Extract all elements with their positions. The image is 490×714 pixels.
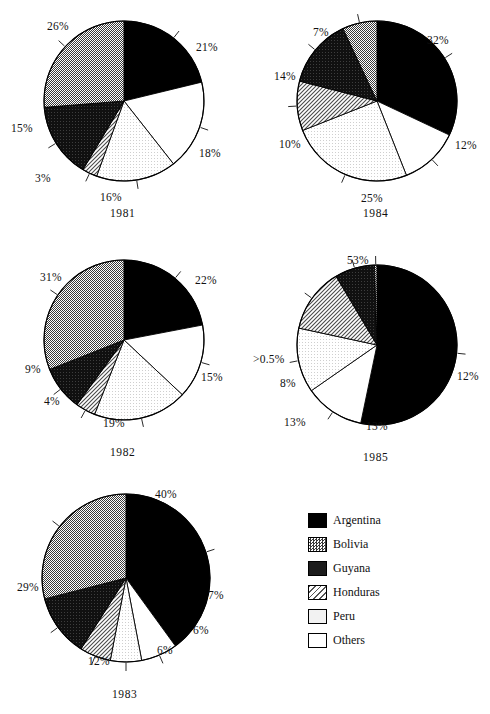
legend-swatch-others (308, 633, 327, 648)
legend-label-honduras: Honduras (333, 586, 380, 598)
legend-item-guyana[interactable]: Guyana (308, 556, 468, 580)
pie-1981-svg (40, 17, 208, 185)
slice-label-bolivia: >0.5% (253, 354, 284, 366)
slice-label-guyana: 9% (25, 364, 41, 376)
slice-label-argentina: 32% (427, 35, 449, 47)
slice-label-argentina: 22% (195, 275, 217, 287)
legend-label-bolivia: Bolivia (333, 538, 368, 550)
pie-slice-bolivia[interactable] (44, 21, 124, 107)
slice-label-honduras: 3% (35, 173, 51, 185)
slice-label-honduras: 13% (284, 417, 306, 429)
slice-label-peru: 13% (366, 421, 388, 433)
slice-label-honduras: 4% (44, 396, 60, 408)
legend-label-argentina: Argentina (333, 514, 381, 526)
legend-swatch-argentina (308, 513, 327, 528)
slice-label-bolivia: 31% (40, 272, 62, 284)
pie-1982 (40, 256, 208, 424)
slice-label-argentina: 21% (196, 42, 218, 54)
chart-title-1981: 1981 (110, 208, 135, 220)
legend-item-bolivia[interactable]: Bolivia (308, 532, 468, 556)
pie-1985 (293, 261, 461, 429)
pie-1983-svg (38, 490, 214, 666)
legend-item-honduras[interactable]: Honduras (308, 580, 468, 604)
chart-title-1984: 1984 (363, 208, 388, 220)
slice-label-bolivia: 7% (313, 27, 329, 39)
legend-swatch-bolivia (308, 537, 327, 552)
slice-label-guyana: 8% (280, 378, 296, 390)
pie-1983 (38, 490, 214, 666)
chart-title-1982: 1982 (110, 447, 135, 459)
slice-label-others: 7% (208, 590, 224, 602)
slice-label-others: 18% (199, 148, 221, 160)
legend-label-guyana: Guyana (333, 562, 370, 574)
slice-label-others: 12% (457, 371, 479, 383)
chart-legend: ArgentinaBoliviaGuyanaHondurasPeruOthers (308, 508, 468, 652)
legend-item-argentina[interactable]: Argentina (308, 508, 468, 532)
legend-label-peru: Peru (333, 610, 355, 622)
slice-label-peru: 6% (193, 625, 209, 637)
slice-label-argentina: 53% (347, 255, 369, 267)
pie-1985-svg (293, 261, 461, 429)
pie-1982-svg (40, 256, 208, 424)
chart-title-1985: 1985 (363, 452, 388, 464)
slice-label-argentina: 40% (155, 489, 177, 501)
slice-label-bolivia: 26% (47, 21, 69, 33)
slice-label-peru: 25% (361, 193, 383, 205)
slice-label-peru: 16% (100, 192, 122, 204)
legend-swatch-guyana (308, 561, 327, 576)
slice-label-honduras: 10% (279, 139, 301, 151)
slice-label-honduras: 6% (157, 645, 173, 657)
legend-swatch-peru (308, 609, 327, 624)
chart-title-1983: 1983 (112, 689, 137, 701)
slice-label-bolivia: 29% (17, 582, 39, 594)
pie-1981 (40, 17, 208, 185)
slice-label-guyana: 15% (11, 123, 33, 135)
legend-item-peru[interactable]: Peru (308, 604, 468, 628)
slice-label-guyana: 12% (88, 656, 110, 668)
slice-label-others: 15% (201, 372, 223, 384)
slice-label-peru: 19% (103, 418, 125, 430)
slice-label-others: 12% (455, 140, 477, 152)
legend-swatch-honduras (308, 585, 327, 600)
legend-item-others[interactable]: Others (308, 628, 468, 652)
slice-label-guyana: 14% (274, 71, 296, 83)
legend-label-others: Others (333, 634, 365, 646)
